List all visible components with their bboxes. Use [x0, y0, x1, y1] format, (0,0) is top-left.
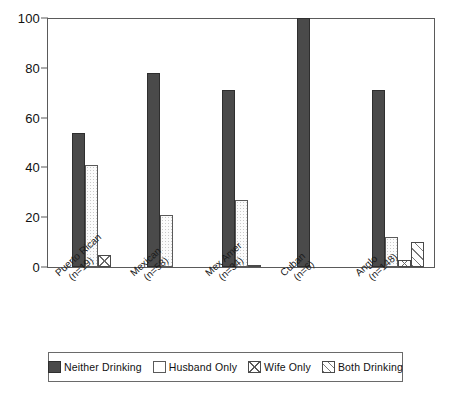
bar-chart: 020406080100 Puerto Rican(n=19)Mexican(n… — [0, 0, 449, 398]
legend-swatch-wife-only — [248, 361, 261, 373]
legend: Neither DrinkingHusband OnlyWife OnlyBot… — [48, 352, 403, 382]
x-axis-labels: Puerto Rican(n=19)Mexican(n=58)Mex Amer(… — [48, 270, 435, 336]
legend-item-label: Both Drinking — [338, 361, 403, 373]
legend-item-label: Husband Only — [169, 361, 237, 373]
bar — [297, 18, 310, 267]
bar-group — [72, 18, 111, 267]
y-axis: 020406080100 — [0, 18, 40, 268]
bar-group — [147, 18, 173, 267]
legend-item[interactable]: Husband Only — [153, 361, 237, 373]
y-axis-tick-label: 40 — [25, 160, 40, 175]
y-axis-tick-label: 80 — [25, 60, 40, 75]
bar-group — [297, 18, 310, 267]
y-axis-tick-label: 60 — [25, 110, 40, 125]
legend-item[interactable]: Neither Drinking — [48, 361, 142, 373]
legend-item-label: Wife Only — [264, 361, 311, 373]
legend-item[interactable]: Wife Only — [248, 361, 311, 373]
bar — [222, 90, 235, 267]
y-axis-tick-label: 100 — [18, 11, 40, 26]
y-axis-tick-label: 0 — [33, 260, 40, 275]
bar — [248, 265, 261, 267]
legend-swatch-neither-drinking — [48, 361, 61, 373]
legend-swatch-both-drinking — [322, 361, 335, 373]
bar — [411, 242, 424, 267]
legend-swatch-husband-only — [153, 361, 166, 373]
bar-group — [372, 18, 424, 267]
legend-item[interactable]: Both Drinking — [322, 361, 403, 373]
bar — [398, 260, 411, 267]
bars-layer — [48, 18, 435, 267]
bar-group — [222, 18, 261, 267]
bar — [147, 73, 160, 267]
y-axis-tick-label: 20 — [25, 210, 40, 225]
bar — [372, 90, 385, 267]
legend-item-label: Neither Drinking — [64, 361, 142, 373]
